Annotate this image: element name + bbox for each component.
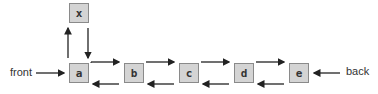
node-b: b [124,63,144,83]
node-e: e [289,63,309,83]
front-label: front [10,66,32,78]
node-x: x [69,3,89,23]
node-a: a [69,63,89,83]
node-c: c [179,63,199,83]
node-d: d [234,63,254,83]
back-label: back [346,65,369,77]
